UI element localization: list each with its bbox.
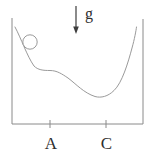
gravity-arrow-icon <box>73 27 79 35</box>
potential-curve-diagram: g A C <box>0 0 156 160</box>
point-a-label: A <box>45 134 58 153</box>
container-outline <box>12 18 143 124</box>
ball <box>23 35 37 49</box>
gravity-label: g <box>85 5 93 23</box>
diagram-canvas: g A C <box>0 0 156 160</box>
point-c-label: C <box>101 134 112 153</box>
